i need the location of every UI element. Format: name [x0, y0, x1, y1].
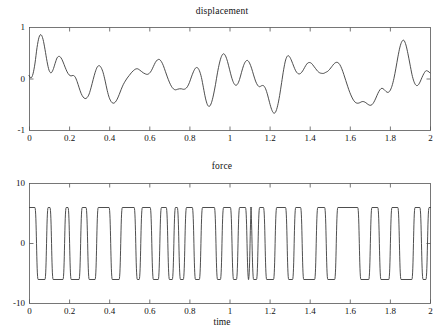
displacement-axes-frame: [30, 28, 431, 131]
force-xtick-2: 2: [428, 306, 433, 316]
displacement-xtick-02: 0.2: [64, 133, 75, 143]
force-xtick-1: 1: [228, 306, 233, 316]
displacement-ytick-0: 0: [16, 74, 25, 84]
force-xtick-08: 0.8: [184, 306, 195, 316]
figure-canvas: displacement: [0, 0, 444, 336]
force-xlabel: time: [0, 317, 444, 327]
displacement-curve: [29, 35, 430, 114]
displacement-xtick-1: 1: [228, 133, 233, 143]
force-xtick-0: 0: [27, 306, 32, 316]
displacement-xtick-0: 0: [27, 133, 32, 143]
force-xtick-18: 1.8: [385, 306, 396, 316]
force-ytick-0: 0: [8, 238, 25, 248]
displacement-x-tickmarks: [30, 28, 431, 131]
displacement-xtick-12: 1.2: [264, 133, 275, 143]
force-xtick-02: 0.2: [64, 306, 75, 316]
force-xtick-16: 1.6: [345, 306, 356, 316]
displacement-plot-area: [0, 0, 444, 155]
displacement-title: displacement: [0, 6, 444, 16]
force-xtick-06: 0.6: [144, 306, 155, 316]
force-xtick-14: 1.4: [305, 306, 316, 316]
displacement-ytick--1: -1: [10, 125, 25, 135]
displacement-xtick-06: 0.6: [144, 133, 155, 143]
panel-force: force: [0, 155, 444, 336]
force-ytick--10: -10: [2, 298, 25, 308]
displacement-xtick-16: 1.6: [345, 133, 356, 143]
panel-displacement: displacement: [0, 0, 444, 155]
force-curve: [30, 208, 431, 280]
displacement-xtick-18: 1.8: [385, 133, 396, 143]
force-title: force: [0, 161, 444, 171]
displacement-ytick-1: 1: [16, 22, 25, 32]
force-xtick-12: 1.2: [264, 306, 275, 316]
force-xtick-04: 0.4: [104, 306, 115, 316]
displacement-xtick-04: 0.4: [104, 133, 115, 143]
displacement-xtick-08: 0.8: [184, 133, 195, 143]
displacement-xtick-14: 1.4: [305, 133, 316, 143]
force-ytick-10: 10: [8, 178, 25, 188]
displacement-xtick-2: 2: [428, 133, 433, 143]
